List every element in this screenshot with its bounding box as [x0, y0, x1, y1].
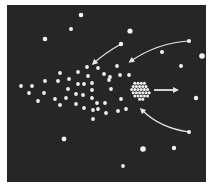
- star-dot: [199, 53, 205, 59]
- group-star-dot: [104, 111, 108, 115]
- group-star-dot: [116, 109, 120, 113]
- group-star-dot: [19, 84, 23, 88]
- incoming-arrow-top-right: [131, 41, 189, 61]
- cluster-star-dot: [143, 82, 146, 85]
- group-star-dot: [127, 73, 131, 77]
- group-star-dot: [85, 65, 89, 69]
- cluster-star-dot: [138, 98, 141, 101]
- group-star-dot: [90, 96, 94, 100]
- cluster-star-dot: [133, 88, 136, 91]
- cluster-star-dot: [137, 95, 140, 98]
- group-star-dot: [53, 97, 57, 101]
- incoming-arrow-bottom: [142, 110, 189, 132]
- star-dot: [179, 64, 183, 68]
- group-star-dot: [91, 117, 95, 121]
- star-dot: [79, 13, 84, 18]
- cluster-star-dot: [146, 95, 149, 98]
- group-star-dot: [90, 88, 94, 92]
- group-star-dot: [58, 103, 62, 107]
- group-star-dot: [43, 79, 47, 83]
- diagram-canvas: [0, 0, 209, 189]
- cluster-star-dot: [148, 91, 151, 94]
- cluster-star-dot: [140, 88, 143, 91]
- group-star-dot: [76, 70, 80, 74]
- scattered-group: [19, 64, 131, 121]
- group-star-dot: [42, 91, 46, 95]
- star-dot: [62, 137, 67, 142]
- group-star-dot: [103, 101, 107, 105]
- group-star-dot: [96, 66, 100, 70]
- star-dot: [160, 50, 164, 54]
- cluster-star-dot: [138, 85, 141, 88]
- group-star-dot: [76, 82, 80, 86]
- group-star-dot: [102, 72, 106, 76]
- cluster-star-dot: [135, 85, 138, 88]
- cluster-star-dot: [130, 88, 133, 91]
- cluster-star-dot: [145, 91, 148, 94]
- incoming-arrow-top-left: [94, 44, 121, 63]
- group-star-dot: [58, 71, 62, 75]
- star-dot: [187, 39, 191, 43]
- group-star-dot: [118, 73, 122, 77]
- group-star-dot: [91, 108, 95, 112]
- cluster-star-dot: [146, 88, 149, 91]
- dense-cluster: [130, 82, 151, 101]
- group-star-dot: [82, 82, 86, 86]
- cluster-star-dot: [141, 91, 144, 94]
- star-dot: [43, 37, 48, 42]
- group-star-dot: [96, 107, 100, 111]
- cluster-star-dot: [132, 85, 135, 88]
- cluster-star-dot: [135, 91, 138, 94]
- group-star-dot: [95, 101, 99, 105]
- group-star-dot: [74, 92, 78, 96]
- cluster-star-dot: [141, 98, 144, 101]
- group-star-dot: [86, 74, 90, 78]
- group-star-dot: [108, 75, 112, 79]
- star-dot: [127, 28, 132, 33]
- cluster-star-dot: [145, 85, 148, 88]
- cluster-star-dot: [143, 95, 146, 98]
- group-star-dot: [119, 97, 123, 101]
- star-dot: [119, 42, 123, 46]
- cluster-star-dot: [137, 82, 140, 85]
- group-star-dot: [109, 87, 113, 91]
- star-dot: [172, 146, 176, 150]
- cluster-star-dot: [132, 91, 135, 94]
- group-star-dot: [90, 81, 94, 85]
- group-star-dot: [82, 106, 86, 110]
- group-star-dot: [67, 77, 71, 81]
- group-star-dot: [81, 93, 85, 97]
- cluster-star-dot: [141, 85, 144, 88]
- cluster-star-dot: [133, 95, 136, 98]
- star-dot: [69, 27, 73, 31]
- cluster-star-dot: [140, 82, 143, 85]
- group-star-dot: [64, 96, 68, 100]
- cluster-star-dot: [138, 91, 141, 94]
- group-star-dot: [66, 87, 70, 91]
- star-dot: [187, 130, 191, 134]
- group-star-dot: [56, 79, 60, 83]
- group-star-dot: [36, 99, 40, 103]
- group-star-dot: [30, 84, 34, 88]
- group-star-dot: [27, 91, 31, 95]
- cluster-star-dot: [143, 88, 146, 91]
- cluster-star-dot: [140, 95, 143, 98]
- star-dot: [121, 164, 125, 168]
- group-star-dot: [124, 107, 128, 111]
- star-dot: [140, 146, 146, 152]
- star-dot: [194, 96, 198, 100]
- cluster-star-dot: [133, 82, 136, 85]
- cluster-star-dot: [137, 88, 140, 91]
- group-star-dot: [74, 102, 78, 106]
- group-star-dot: [115, 64, 119, 68]
